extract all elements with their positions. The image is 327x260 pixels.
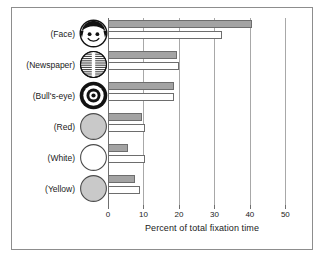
bar-row (108, 18, 296, 49)
white-disc-icon (79, 143, 108, 172)
bar-white (108, 155, 145, 163)
newspaper-icon (79, 50, 108, 79)
category-label-yellow: (Yellow) (45, 184, 75, 194)
x-tick-label-20: 20 (167, 210, 191, 220)
category-label-bullseye: (Bull's-eye) (33, 91, 75, 101)
bar-white (108, 124, 145, 132)
category-label-face: (Face) (50, 29, 75, 39)
x-tick-30 (214, 205, 215, 209)
plot-area (108, 18, 296, 205)
bar-white (108, 93, 174, 101)
bar-row (108, 80, 296, 111)
bar-gray (108, 51, 177, 59)
bar-white (108, 186, 140, 194)
figure-root: (Face) (Newspaper) (0, 0, 327, 260)
bullseye-icon (79, 81, 108, 110)
x-tick-40 (250, 205, 251, 209)
bar-gray (108, 20, 252, 28)
x-tick-label-10: 10 (131, 210, 155, 220)
category-yellow: (Yellow) (11, 173, 108, 204)
x-tick-20 (179, 205, 180, 209)
x-axis-title: Percent of total fixation time (108, 223, 296, 233)
face-icon (79, 19, 108, 48)
bar-row (108, 111, 296, 142)
category-bullseye: (Bull's-eye) (11, 80, 108, 111)
bar-gray (108, 175, 135, 183)
x-tick-label-0: 0 (96, 210, 120, 220)
category-label-red: (Red) (54, 122, 75, 132)
category-newspaper: (Newspaper) (11, 49, 108, 80)
bar-gray (108, 82, 174, 90)
x-tick-label-30: 30 (202, 210, 226, 220)
category-label-newspaper: (Newspaper) (26, 60, 75, 70)
category-white: (White) (11, 142, 108, 173)
category-face: (Face) (11, 18, 108, 49)
red-disc-icon (79, 112, 108, 141)
category-red: (Red) (11, 111, 108, 142)
bar-gray (108, 144, 128, 152)
x-tick-label-50: 50 (273, 210, 297, 220)
x-tick-0 (108, 205, 109, 209)
category-label-white: (White) (48, 153, 75, 163)
bar-gray (108, 113, 142, 121)
bar-row (108, 173, 296, 204)
bar-white (108, 62, 179, 70)
x-tick-10 (143, 205, 144, 209)
x-tick-50 (285, 205, 286, 209)
yellow-disc-icon (79, 174, 108, 203)
bar-white (108, 31, 222, 39)
bar-row (108, 142, 296, 173)
bar-row (108, 49, 296, 80)
x-tick-label-40: 40 (238, 210, 262, 220)
